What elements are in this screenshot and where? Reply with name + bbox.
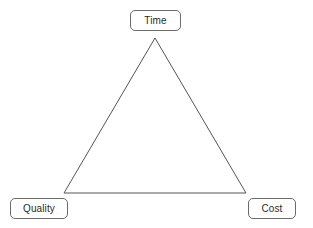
triangle-shape — [0, 0, 313, 228]
node-time-label: Time — [143, 16, 167, 26]
diagram-canvas: Time Quality Cost — [0, 0, 313, 228]
node-quality[interactable]: Quality — [10, 198, 68, 219]
triangle-outline — [64, 38, 246, 193]
node-quality-label: Quality — [22, 204, 56, 214]
node-cost[interactable]: Cost — [248, 198, 296, 219]
node-time[interactable]: Time — [130, 10, 181, 31]
node-cost-label: Cost — [261, 204, 284, 214]
